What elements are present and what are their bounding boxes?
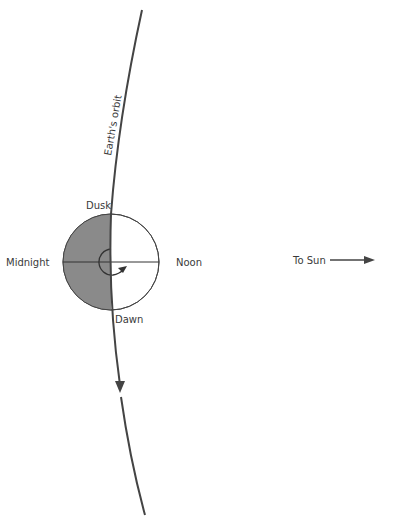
to-sun-label: To Sun	[292, 255, 326, 266]
orbit-direction-arrow-icon	[115, 381, 125, 393]
dawn-label: Dawn	[115, 314, 143, 325]
midnight-label: Midnight	[6, 257, 50, 268]
earth-orbit-diagram: Earth's orbit Dusk Dawn Midnight Noon To…	[0, 0, 394, 526]
dusk-label: Dusk	[86, 200, 111, 211]
sun-direction-arrow-icon	[330, 256, 375, 264]
noon-label: Noon	[176, 257, 202, 268]
